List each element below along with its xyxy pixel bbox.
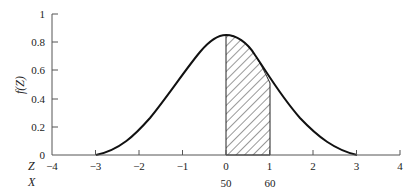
svg-text:−4: −4 bbox=[46, 160, 58, 172]
z-tick-labels: −4 −3 −2 −1 0 1 2 3 4 bbox=[46, 160, 403, 172]
svg-text:−2: −2 bbox=[133, 160, 145, 172]
x-tick-labels: 50 60 bbox=[221, 177, 277, 189]
svg-text:−1: −1 bbox=[177, 160, 189, 172]
normal-distribution-chart: 0 0.2 0.4 0.6 0.8 1 f(Z) −4 −3 −2 −1 0 1… bbox=[0, 0, 420, 195]
shaded-area bbox=[226, 35, 270, 155]
svg-text:−3: −3 bbox=[90, 160, 102, 172]
svg-text:0: 0 bbox=[223, 160, 229, 172]
svg-text:0.6: 0.6 bbox=[31, 64, 45, 76]
svg-text:0.2: 0.2 bbox=[31, 121, 45, 133]
svg-text:0: 0 bbox=[40, 149, 46, 161]
svg-text:50: 50 bbox=[221, 177, 233, 189]
y-axis-label: f(Z) bbox=[13, 76, 27, 94]
svg-text:0.8: 0.8 bbox=[31, 36, 45, 48]
svg-text:1: 1 bbox=[267, 160, 273, 172]
svg-text:0.4: 0.4 bbox=[31, 93, 45, 105]
svg-text:1: 1 bbox=[40, 8, 46, 20]
z-axis-label: Z bbox=[28, 159, 35, 173]
y-ticks bbox=[52, 14, 58, 127]
x-axis-label: X bbox=[27, 175, 36, 189]
svg-text:2: 2 bbox=[310, 160, 316, 172]
svg-text:60: 60 bbox=[265, 177, 277, 189]
y-tick-labels: 0 0.2 0.4 0.6 0.8 1 bbox=[31, 8, 45, 161]
svg-text:4: 4 bbox=[397, 160, 403, 172]
svg-text:3: 3 bbox=[354, 160, 360, 172]
